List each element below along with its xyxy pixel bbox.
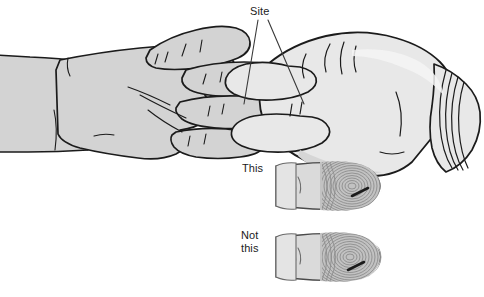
this-label: This: [242, 162, 263, 175]
not-this-label: Not this: [241, 229, 259, 255]
glove-index-finger: [231, 114, 329, 152]
fingertip-correct-nailfold: [276, 163, 296, 209]
fingertip-incorrect-nailfold: [276, 234, 296, 280]
site-label: Site: [250, 5, 269, 18]
medical-illustration-figure: Site This Not this: [0, 0, 484, 297]
gloved-hand-group: [225, 32, 480, 176]
fingertip-example-incorrect: [276, 222, 396, 292]
